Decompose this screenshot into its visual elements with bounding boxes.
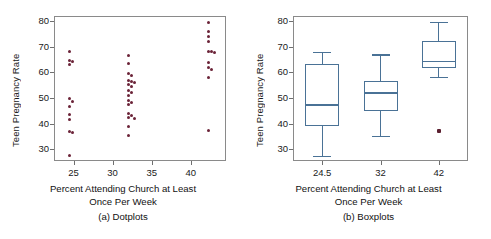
box-rect bbox=[422, 41, 456, 69]
data-point bbox=[127, 134, 130, 137]
panel-b-x-axis-label-line1: Percent Attending Church at Least bbox=[295, 183, 441, 194]
y-tick-label: 30 bbox=[263, 143, 288, 154]
x-tick-mark bbox=[74, 161, 75, 165]
x-tick-label: 40 bbox=[175, 167, 207, 178]
panel-b-x-axis-label-line2: Once Per Week bbox=[335, 196, 403, 207]
data-point bbox=[68, 154, 71, 157]
panel-a-caption: (a) Dotplots bbox=[0, 211, 246, 222]
x-tick-label: 25 bbox=[58, 167, 90, 178]
y-tick-mark bbox=[289, 72, 293, 73]
x-tick-label: 30 bbox=[97, 167, 129, 178]
y-tick-mark bbox=[289, 124, 293, 125]
whisker-cap bbox=[313, 52, 331, 53]
panel-b-caption: (b) Boxplots bbox=[246, 211, 491, 222]
median-line bbox=[364, 92, 398, 93]
panel-a-plot-area bbox=[54, 16, 226, 161]
panel-a-x-axis-label-line2: Once Per Week bbox=[89, 196, 157, 207]
box-rect bbox=[305, 64, 339, 127]
whisker-stem bbox=[438, 22, 439, 41]
data-point bbox=[127, 103, 130, 106]
x-tick-label: 42 bbox=[419, 167, 459, 178]
panel-dotplots: Teen Pregnancy Rate 304050607080 2530354… bbox=[0, 0, 246, 239]
whisker-stem bbox=[438, 68, 439, 76]
x-tick-mark bbox=[191, 161, 192, 165]
y-tick-label: 30 bbox=[24, 143, 49, 154]
panel-boxplots: Teen Pregnancy Rate 304050607080 24.5324… bbox=[246, 0, 491, 239]
data-point bbox=[127, 94, 130, 97]
median-line bbox=[305, 104, 339, 105]
panel-a-x-axis-label: Percent Attending Church at Least Once P… bbox=[0, 183, 246, 208]
x-tick-mark bbox=[322, 161, 323, 165]
y-tick-mark bbox=[50, 149, 54, 150]
y-tick-label: 50 bbox=[24, 92, 49, 103]
whisker-cap bbox=[372, 54, 390, 55]
y-tick-mark bbox=[289, 98, 293, 99]
x-tick-mark bbox=[152, 161, 153, 165]
whisker-cap bbox=[430, 22, 448, 23]
panel-a-x-axis-label-line1: Percent Attending Church at Least bbox=[50, 183, 196, 194]
data-point bbox=[71, 100, 74, 103]
y-tick-label: 70 bbox=[263, 41, 288, 52]
y-tick-mark bbox=[50, 124, 54, 125]
y-tick-label: 80 bbox=[263, 15, 288, 26]
data-point bbox=[127, 62, 130, 65]
whisker-stem bbox=[322, 126, 323, 156]
whisker-stem bbox=[380, 54, 381, 80]
data-point bbox=[127, 116, 130, 119]
y-tick-mark bbox=[289, 149, 293, 150]
y-tick-label: 60 bbox=[24, 66, 49, 77]
y-tick-mark bbox=[50, 98, 54, 99]
y-tick-label: 40 bbox=[24, 118, 49, 129]
y-tick-mark bbox=[50, 72, 54, 73]
x-tick-label: 32 bbox=[361, 167, 401, 178]
data-point bbox=[71, 131, 74, 134]
y-tick-label: 70 bbox=[24, 41, 49, 52]
panel-b-x-axis-label: Percent Attending Church at Least Once P… bbox=[246, 183, 491, 208]
data-point bbox=[68, 105, 71, 108]
y-tick-label: 40 bbox=[263, 118, 288, 129]
data-point bbox=[130, 74, 133, 77]
whisker-stem bbox=[380, 111, 381, 136]
data-point bbox=[133, 117, 136, 120]
whisker-cap bbox=[372, 136, 390, 137]
y-tick-mark bbox=[50, 21, 54, 22]
y-tick-label: 60 bbox=[263, 66, 288, 77]
data-point bbox=[207, 76, 210, 79]
box-rect bbox=[364, 81, 398, 111]
x-tick-mark bbox=[439, 161, 440, 165]
x-tick-mark bbox=[113, 161, 114, 165]
panel-a-y-axis-label: Teen Pregnancy Rate bbox=[10, 32, 21, 147]
y-tick-mark bbox=[289, 21, 293, 22]
y-tick-label: 50 bbox=[263, 92, 288, 103]
x-tick-label: 24.5 bbox=[302, 167, 342, 178]
data-point bbox=[130, 85, 133, 88]
y-tick-label: 80 bbox=[24, 15, 49, 26]
whisker-stem bbox=[322, 52, 323, 64]
whisker-cap bbox=[313, 156, 331, 157]
y-tick-mark bbox=[289, 47, 293, 48]
y-tick-mark bbox=[50, 47, 54, 48]
x-tick-mark bbox=[381, 161, 382, 165]
figure-container: Teen Pregnancy Rate 304050607080 2530354… bbox=[0, 0, 491, 239]
x-tick-label: 35 bbox=[136, 167, 168, 178]
outlier-point bbox=[437, 129, 441, 133]
median-line bbox=[422, 61, 456, 62]
whisker-cap bbox=[430, 77, 448, 78]
